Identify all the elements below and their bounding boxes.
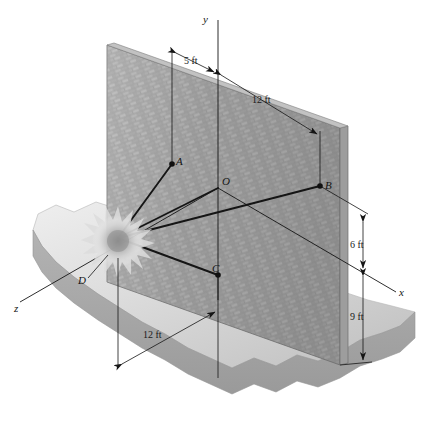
y-axis-label: y <box>202 13 208 25</box>
dimension-12ft-bottom-label: 12 ft <box>143 329 162 340</box>
dimension-5ft-label: 5 ft <box>184 55 198 66</box>
wall-right-edge <box>340 126 348 365</box>
point-C-label: C <box>212 262 220 274</box>
starburst-core <box>107 230 129 252</box>
point-O-label: O <box>222 175 230 187</box>
point-A-label: A <box>175 155 183 167</box>
point-D-label: D <box>77 274 86 286</box>
dimension-9ft-label: 9 ft <box>350 311 364 322</box>
x-axis-label: x <box>398 286 404 298</box>
dimension-12ft-top-label: 12 ft <box>252 94 271 105</box>
z-axis-label: z <box>13 302 19 314</box>
diagram-svg: y x z A O B C D 5 ft 12 ft 6 ft <box>0 0 429 433</box>
figure-canvas: y x z A O B C D 5 ft 12 ft 6 ft <box>0 0 429 433</box>
dimension-6ft-label: 6 ft <box>350 239 364 250</box>
